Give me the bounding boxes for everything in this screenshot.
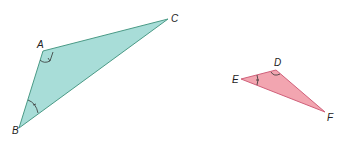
triangle-abc — [19, 19, 168, 128]
label-a: A — [36, 39, 44, 50]
label-e: E — [232, 74, 239, 85]
triangle-def — [241, 70, 325, 112]
label-c: C — [171, 13, 179, 24]
label-f: F — [327, 112, 334, 123]
label-d: D — [274, 57, 281, 68]
similar-triangles-diagram: A B C D E F — [0, 0, 340, 146]
label-b: B — [12, 125, 19, 136]
